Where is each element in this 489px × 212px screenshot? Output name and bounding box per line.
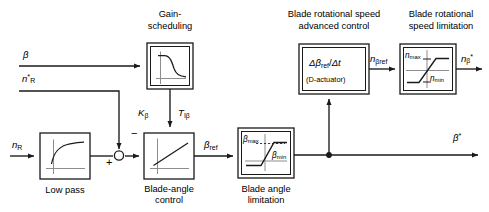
diagram-graphics: [0, 0, 489, 212]
block-gain-scheduling: [147, 43, 193, 89]
limit-label-n-max: nmax: [405, 52, 421, 61]
limit-label-n-min: nmin: [430, 75, 444, 84]
signal-label-beta-ref: βref: [204, 140, 218, 151]
block-low-pass: [40, 133, 90, 179]
signal-label-n-beta-ref: nβref: [370, 54, 387, 65]
caption-blade-angle-control-line1: Blade-angle: [134, 184, 204, 194]
caption-d-actuator-line2: advanced control: [258, 21, 410, 31]
limit-label-beta-max: βmax: [243, 136, 259, 145]
caption-speed-limitation-line2: speed limitation: [398, 21, 484, 31]
signal-label-n-beta-star: nβ*: [461, 53, 473, 65]
signal-label-beta: β: [23, 50, 28, 60]
sum-sign-plus: +: [106, 157, 112, 169]
signal-label-nr-star: n*R: [22, 73, 35, 85]
caption-gain-scheduling-line1: Gain-: [140, 9, 200, 19]
caption-d-actuator-line1: Blade rotational speed: [258, 9, 410, 19]
summing-junction: [114, 151, 123, 160]
signal-label-nr: nR: [12, 140, 22, 151]
caption-speed-limitation-line1: Blade rotational: [398, 9, 484, 19]
block-d-actuator: [299, 44, 369, 94]
caption-blade-angle-limitation-line1: Blade angle: [230, 184, 302, 194]
block-blade-angle-control: [144, 133, 194, 179]
junction-dot-beta-star: [326, 152, 332, 158]
caption-blade-angle-control-line2: control: [134, 195, 204, 205]
signal-label-beta-star: β*: [453, 132, 461, 143]
limit-label-beta-min: βmin: [272, 152, 286, 161]
caption-gain-scheduling-line2: scheduling: [128, 21, 212, 31]
caption-blade-angle-limitation-line2: limitation: [230, 195, 302, 205]
param-label-k-beta: Kβ: [138, 108, 148, 119]
param-label-t-i-beta: TIβ: [178, 108, 190, 119]
d-actuator-subtitle: (D-actuator): [306, 76, 345, 84]
sum-sign-minus: −: [131, 128, 137, 140]
d-actuator-formula: Δβref/Δt: [309, 58, 341, 69]
caption-low-pass: Low pass: [35, 185, 95, 195]
block-diagram-canvas: Gain- scheduling β n*R nR Low pass + − K…: [0, 0, 489, 212]
